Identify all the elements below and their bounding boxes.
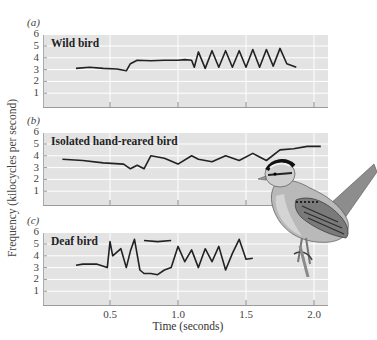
panel-a-title: Wild bird [51,37,99,49]
y-tick-label: 6 [29,225,39,237]
y-tick-label: 5 [29,137,39,149]
x-tick-1-5: 1.5 [231,308,261,320]
y-tick-label: 5 [29,237,39,249]
y-tick-label: 3 [29,261,39,273]
sparrow-illustration [258,142,377,277]
y-tick-label: 4 [29,149,39,161]
panel-wild-bird: Wild bird [43,35,328,108]
y-tick-label: 1 [29,86,39,98]
x-tick-0-5: 0.5 [95,308,125,320]
y-tick-label: 1 [29,184,39,196]
y-tick-label: 5 [29,39,39,51]
x-axis-label: Time (seconds) [128,320,248,332]
panel-a-letter: (a) [27,16,40,28]
x-tick-2-0: 2.0 [299,308,329,320]
y-tick-label: 6 [29,125,39,137]
y-tick-label: 2 [29,272,39,284]
panel-b-title: Isolated hand-reared bird [51,135,178,147]
y-tick-label: 2 [29,172,39,184]
y-tick-label: 1 [29,284,39,296]
panel-b-letter: (b) [27,114,40,126]
x-tick-1-0: 1.0 [163,308,193,320]
y-tick-label: 3 [29,63,39,75]
sonogram-trace [76,48,296,70]
y-tick-label: 2 [29,74,39,86]
panel-c-letter: (c) [27,214,39,226]
sonogram-trace [144,241,171,242]
y-tick-label: 4 [29,51,39,63]
y-tick-label: 6 [29,27,39,39]
y-tick-label: 3 [29,161,39,173]
panel-c-title: Deaf bird [51,235,98,247]
sonogram-trace [76,239,253,274]
y-tick-label: 4 [29,249,39,261]
y-axis-label: Frequency (kilocycles per second) [6,88,18,268]
